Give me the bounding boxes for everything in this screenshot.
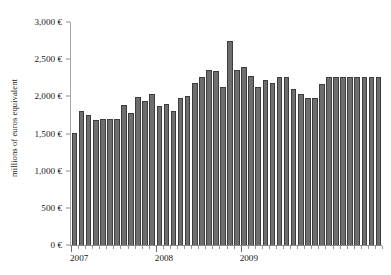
x-axis-minor-tick: [276, 246, 277, 249]
x-axis-minor-tick: [163, 246, 164, 249]
x-axis-minor-tick: [212, 246, 213, 249]
x-axis-minor-tick: [375, 246, 376, 249]
x-axis-minor-tick: [248, 246, 249, 249]
x-axis-minor-tick: [269, 246, 270, 249]
x-axis-minor-tick: [340, 246, 341, 249]
x-axis-minor-tick: [347, 246, 348, 249]
x-axis-minor-tick: [290, 246, 291, 249]
x-axis-minor-tick: [382, 246, 383, 249]
x-axis-tick-labels: 200720082009: [0, 0, 391, 275]
x-axis-tick-label: 2009: [240, 253, 258, 263]
x-axis-minor-tick: [113, 246, 114, 249]
x-axis-major-tick: [241, 246, 242, 252]
x-axis-minor-tick: [318, 246, 319, 249]
x-axis-minor-tick: [184, 246, 185, 249]
x-axis-minor-tick: [283, 246, 284, 249]
x-axis-tick-label: 2008: [155, 253, 173, 263]
x-axis-minor-tick: [198, 246, 199, 249]
x-axis-minor-tick: [170, 246, 171, 249]
x-axis-minor-tick: [128, 246, 129, 249]
x-axis-minor-tick: [325, 246, 326, 249]
x-axis-minor-tick: [205, 246, 206, 249]
x-axis-minor-tick: [262, 246, 263, 249]
x-axis-minor-tick: [78, 246, 79, 249]
x-axis-minor-tick: [227, 246, 228, 249]
x-axis-minor-tick: [368, 246, 369, 249]
x-axis-minor-tick: [85, 246, 86, 249]
x-axis-minor-tick: [177, 246, 178, 249]
x-axis-minor-tick: [120, 246, 121, 249]
chart-figure: millions of euros equivalent 3,000 €2,50…: [0, 0, 391, 275]
x-axis-minor-tick: [297, 246, 298, 249]
x-axis-tick-label: 2007: [70, 253, 88, 263]
x-axis-minor-tick: [191, 246, 192, 249]
x-axis-minor-tick: [219, 246, 220, 249]
x-axis-minor-tick: [92, 246, 93, 249]
x-axis-minor-tick: [255, 246, 256, 249]
x-axis-minor-tick: [333, 246, 334, 249]
x-axis-major-tick: [71, 246, 72, 252]
x-axis-major-tick: [156, 246, 157, 252]
x-axis-minor-tick: [304, 246, 305, 249]
x-axis-minor-tick: [99, 246, 100, 249]
x-axis-minor-tick: [106, 246, 107, 249]
x-axis-minor-tick: [149, 246, 150, 249]
x-axis-minor-tick: [135, 246, 136, 249]
x-axis-minor-tick: [311, 246, 312, 249]
x-axis-minor-tick: [361, 246, 362, 249]
x-axis-minor-tick: [354, 246, 355, 249]
x-axis-minor-tick: [142, 246, 143, 249]
x-axis-minor-tick: [234, 246, 235, 249]
